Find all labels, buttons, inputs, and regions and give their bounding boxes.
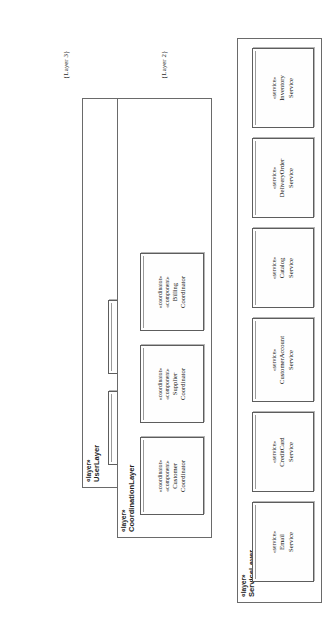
diagram-canvas: {Layer 3} «layer» UserLayer «user intera…	[0, 0, 331, 630]
service-name-line2: Service	[287, 442, 295, 462]
service-stereotype: «service»	[271, 531, 278, 553]
layer-box-coordination-layer[interactable]: «layer» CoordinationLayer «coordinator» …	[117, 98, 212, 538]
layer-box-service-layer[interactable]: «layer» ServiceLayer «service» Email Ser…	[237, 38, 322, 603]
component-stereotype-coordinator: «coordinator»	[157, 276, 164, 309]
service-name-line2: Service	[287, 78, 295, 98]
component-stereotype-coordinator: «coordinator»	[157, 368, 164, 401]
service-catalog-service[interactable]: «service» Catalog Service	[252, 228, 314, 308]
layer-name-coordination-layer: CoordinationLayer	[128, 464, 136, 532]
service-stereotype: «service»	[271, 441, 278, 463]
service-name-line1: Catalog	[278, 258, 286, 279]
component-name-line1: Billing	[171, 283, 179, 301]
service-name-line2: Service	[287, 168, 295, 188]
component-billing-coordinator[interactable]: «coordinator» «component» Billing Coordi…	[140, 253, 204, 331]
service-name-line1: Email	[278, 534, 286, 550]
component-supplier-coordinator[interactable]: «coordinator» «component» Supplier Coord…	[140, 345, 204, 423]
layer-caption-coordination-layer: {Layer 2}	[160, 51, 168, 79]
service-stereotype: «service»	[271, 349, 278, 371]
layer-header-user-layer: «layer» UserLayer	[86, 445, 101, 482]
component-stereotype-coordinator: «coordinator»	[157, 460, 164, 493]
service-stereotype: «service»	[271, 77, 278, 99]
component-name-line2: Coordinator	[179, 460, 187, 492]
layer-name-user-layer: UserLayer	[93, 445, 101, 482]
service-inventory-service[interactable]: «service» Inventory Service	[252, 48, 314, 128]
component-name-line2: Coordinator	[179, 368, 187, 400]
service-name-line2: Service	[287, 532, 295, 552]
service-deliveryorder-service[interactable]: «service» DeliveryOrder Service	[252, 138, 314, 218]
service-name-line1: CreditCard	[278, 437, 286, 466]
parts-service-layer: «service» Email Service «service» Credit…	[252, 48, 314, 582]
component-name-line1: Customer	[171, 463, 179, 489]
service-name-line1: CustomerAccount	[278, 336, 286, 384]
layer-header-coordination-layer: «layer» CoordinationLayer	[121, 464, 136, 532]
service-name-line1: DeliveryOrder	[278, 159, 286, 197]
service-name-line2: Service	[287, 350, 295, 370]
component-stereotype-component: «component»	[164, 368, 171, 400]
layer-caption-user-layer: {Layer 3}	[62, 51, 70, 79]
service-name-line2: Service	[287, 258, 295, 278]
service-name-line1: Inventory	[278, 75, 286, 101]
service-stereotype: «service»	[271, 167, 278, 189]
service-creditcard-service[interactable]: «service» CreditCard Service	[252, 412, 314, 492]
service-stereotype: «service»	[271, 257, 278, 279]
component-stereotype-component: «component»	[164, 276, 171, 308]
parts-coordination-layer: «coordinator» «component» Customer Coord…	[140, 253, 204, 515]
service-customeraccount-service[interactable]: «service» CustomerAccount Service	[252, 318, 314, 402]
component-stereotype-component: «component»	[164, 460, 171, 492]
service-email-service[interactable]: «service» Email Service	[252, 502, 314, 582]
component-customer-coordinator[interactable]: «coordinator» «component» Customer Coord…	[140, 437, 204, 515]
component-name-line1: Supplier	[171, 373, 179, 395]
component-name-line2: Coordinator	[179, 276, 187, 308]
